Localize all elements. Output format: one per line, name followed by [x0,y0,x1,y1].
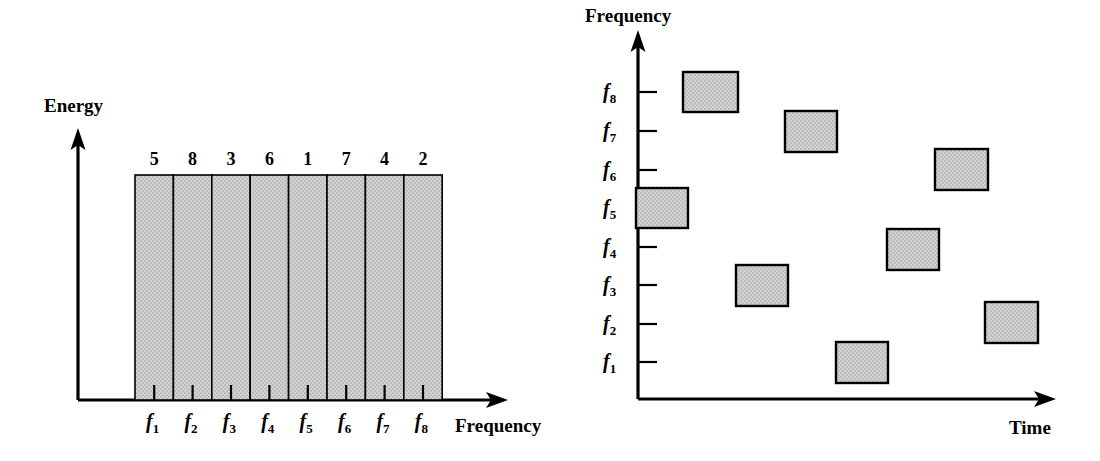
axis-label-f7: f7 [376,410,390,436]
bar-f3[interactable] [212,175,250,400]
tick-label-f2: f2 [603,312,616,338]
hop-block-slot7-f6[interactable] [935,149,988,190]
tick-label-f8: f8 [603,80,617,106]
axis-label-f3: f3 [223,410,237,436]
time-axis-title: Time [1009,417,1051,438]
figure-frequency-hopping: Energy Frequency [0,0,1100,461]
axis-label-f2: f2 [184,410,197,436]
bar-number-f2: 8 [188,149,197,169]
bar-number-f4: 6 [265,149,274,169]
hopping-y-label-group: f8 f7 f6 f5 f4 f3 f2 [603,80,617,376]
bar-f6[interactable] [327,175,365,400]
hop-block-slot3-f3[interactable] [736,265,788,306]
bar-f7[interactable] [365,175,403,400]
tick-label-f3: f3 [603,273,617,299]
hopping-chart-svg: Frequency Time [560,0,1100,461]
frequency-axis-title: Frequency [585,5,672,26]
hop-block-slot2-f8[interactable] [683,72,738,112]
tick-label-f7: f7 [603,119,617,145]
chart-frequency-vs-time: Frequency Time [560,0,1100,461]
energy-x-label-group: f1 f2 f3 f4 f5 f6 f7 [146,410,428,436]
bar-f1[interactable] [135,175,173,400]
frequency-axis-title: Frequency [455,415,542,436]
tick-label-f1: f1 [603,350,616,376]
tick-label-f6: f6 [603,158,617,184]
hop-block-slot8-f2[interactable] [985,302,1038,343]
bar-number-f7: 4 [380,149,389,169]
axis-label-f6: f6 [338,410,352,436]
axis-label-f4: f4 [261,410,275,436]
bar-number-f6: 7 [342,149,351,169]
hop-block-slot4-f7[interactable] [785,111,837,152]
axis-label-f1: f1 [146,410,159,436]
bar-number-f3: 3 [227,149,236,169]
bar-f2[interactable] [173,175,211,400]
hop-block-slot1-f5[interactable] [636,188,688,228]
energy-chart-svg: Energy Frequency [0,0,560,461]
axis-label-f5: f5 [300,410,314,436]
tick-label-f5: f5 [603,196,617,222]
bar-f8[interactable] [404,175,442,400]
bar-number-f8: 2 [419,149,428,169]
tick-label-f4: f4 [603,235,617,261]
energy-axis-title: Energy [44,95,104,116]
chart-energy-vs-frequency: Energy Frequency [0,0,560,461]
hop-block-slot6-f4[interactable] [887,229,939,270]
bar-group [135,175,442,400]
hop-block-slot5-f1[interactable] [836,342,888,383]
bar-f5[interactable] [289,175,327,400]
bar-number-f1: 5 [150,149,159,169]
hop-block-group [636,72,1038,383]
bar-number-f5: 1 [303,149,312,169]
bar-number-group: 5 8 3 6 1 7 4 2 [150,149,428,169]
bar-f4[interactable] [250,175,288,400]
axis-label-f8: f8 [415,410,429,436]
